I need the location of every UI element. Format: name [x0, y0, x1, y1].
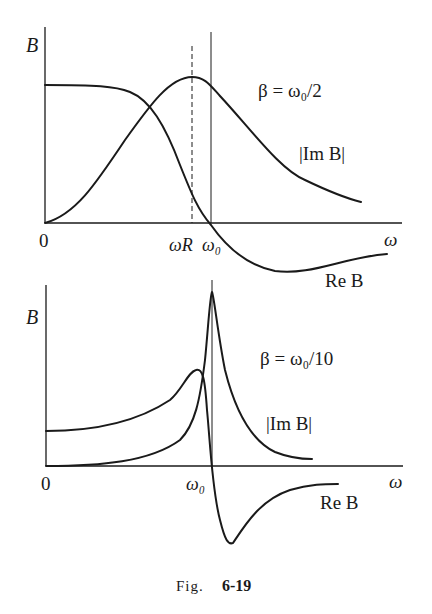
- bottom-chart: B β = ω₀/10 |Im B| Re B 0 ω₀ ω: [26, 280, 403, 543]
- im-b-label: |Im B|: [266, 413, 312, 434]
- omega-r-label: ωR: [169, 235, 193, 255]
- origin-label: 0: [39, 230, 49, 251]
- omega0-label: ω₀: [186, 474, 205, 494]
- beta-annotation: β = ω₀/2: [258, 80, 322, 101]
- omega-axis-label: ω: [389, 471, 402, 492]
- figure-canvas: B β = ω₀/2 |Im B| Re B 0 ωR ω₀ ω B β = ω…: [0, 0, 432, 614]
- im-b-label: |Im B|: [299, 143, 345, 164]
- caption-number: 6-19: [222, 577, 251, 594]
- top-chart: B β = ω₀/2 |Im B| Re B 0 ωR ω₀ ω: [26, 27, 402, 291]
- y-axis-label: B: [26, 306, 38, 328]
- re-b-label: Re B: [320, 492, 359, 513]
- caption-prefix: Fig.: [176, 578, 204, 594]
- omega0-label: ω₀: [202, 235, 221, 255]
- omega-axis-label: ω: [384, 229, 397, 250]
- figure-caption: Fig. 6-19: [176, 577, 251, 594]
- y-axis-label: B: [26, 34, 38, 56]
- origin-label: 0: [41, 473, 51, 494]
- beta-annotation: β = ω₀/10: [260, 348, 333, 369]
- re-b-label: Re B: [325, 270, 364, 291]
- im-b-curve: [46, 292, 312, 466]
